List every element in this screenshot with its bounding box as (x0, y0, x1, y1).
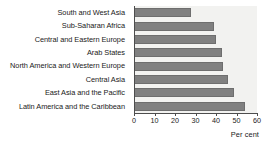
bar-row (134, 33, 257, 46)
bar-row (134, 19, 257, 32)
bar (134, 102, 245, 111)
x-axis-tick-label: 10 (151, 117, 159, 124)
bar (134, 48, 222, 57)
y-axis-line (134, 6, 135, 113)
x-axis-tick-label: 0 (132, 117, 136, 124)
category-label: Latin America and the Caribbean (0, 100, 129, 113)
category-label: South and West Asia (0, 6, 129, 19)
bar-row (134, 6, 257, 19)
bar (134, 22, 214, 31)
x-axis-tick-label: 20 (171, 117, 179, 124)
category-label: Sub-Saharan Africa (0, 19, 129, 32)
bar-row (134, 73, 257, 86)
category-label: Central and Eastern Europe (0, 33, 129, 46)
x-axis-title: Per cent (231, 131, 259, 138)
bar-row (134, 60, 257, 73)
bar (134, 62, 223, 71)
bar-row (134, 86, 257, 99)
bar (134, 35, 216, 44)
x-axis-tick-label: 60 (253, 117, 261, 124)
bar (134, 8, 191, 17)
x-axis-tick-label: 30 (192, 117, 200, 124)
bar-row (134, 100, 257, 113)
category-label: East Asia and the Pacific (0, 86, 129, 99)
category-label: Central Asia (0, 73, 129, 86)
bar-chart: South and West Asia Sub-Saharan Africa C… (0, 0, 262, 145)
bar (134, 88, 234, 97)
category-axis-labels: South and West Asia Sub-Saharan Africa C… (0, 6, 129, 113)
category-label: Arab States (0, 46, 129, 59)
x-axis-tick-label: 50 (233, 117, 241, 124)
bars-layer (134, 6, 257, 113)
category-label: North America and Western Europe (0, 60, 129, 73)
bar (134, 75, 228, 84)
bar-row (134, 46, 257, 59)
x-axis-tick-label: 40 (212, 117, 220, 124)
plot-area (134, 6, 257, 113)
